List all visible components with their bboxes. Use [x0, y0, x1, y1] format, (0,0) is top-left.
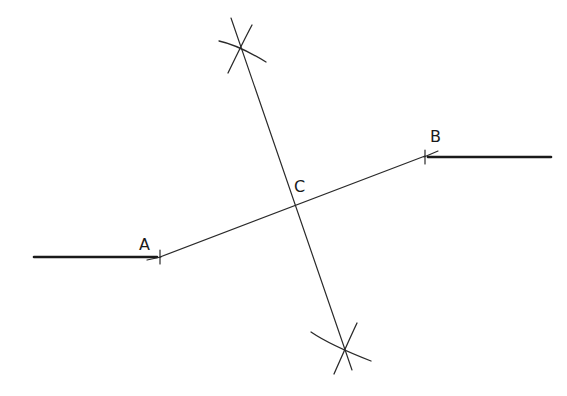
label-c: C — [294, 177, 305, 196]
bottom-arc-marks — [311, 323, 371, 374]
label-b: B — [430, 127, 441, 146]
perpendicular-bisector-line — [231, 18, 352, 370]
segment-ab — [160, 156, 425, 257]
perpendicular-bisector-diagram: A B C — [0, 0, 567, 396]
label-a: A — [139, 235, 150, 254]
top-arc-marks — [219, 25, 266, 73]
